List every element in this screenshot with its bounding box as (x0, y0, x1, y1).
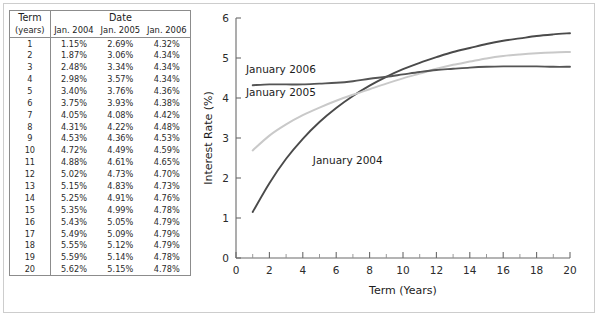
y-axis-title: Interest Rate (%) (202, 91, 215, 185)
header-term: Term (10, 11, 51, 25)
cell-jan-2004: 5.49% (50, 228, 97, 240)
cell-term: 16 (10, 216, 51, 228)
table-row: 165.43%5.05%4.79% (10, 216, 191, 228)
rate-table-body: 11.15%2.69%4.32%21.87%3.06%4.34%32.48%3.… (10, 38, 191, 276)
table-row: 53.40%3.76%4.36% (10, 85, 191, 97)
table-row: 11.15%2.69%4.32% (10, 38, 191, 50)
x-axis-ticks: 02468101214161820 (233, 252, 577, 276)
table-row: 21.87%3.06%4.34% (10, 49, 191, 61)
cell-term: 8 (10, 121, 51, 133)
cell-jan-2004: 4.72% (50, 145, 97, 157)
cell-jan-2005: 4.22% (97, 121, 143, 133)
cell-jan-2005: 4.61% (97, 156, 143, 168)
series-label-january-2005: January 2005 (245, 86, 316, 98)
cell-term: 4 (10, 73, 51, 85)
cell-jan-2005: 3.34% (97, 61, 143, 73)
cell-jan-2005: 3.93% (97, 97, 143, 109)
cell-jan-2006: 4.48% (144, 121, 191, 133)
header-date-group: Date (50, 11, 190, 25)
cell-jan-2004: 5.43% (50, 216, 97, 228)
table-row: 185.55%5.12%4.79% (10, 240, 191, 252)
x-tick-label: 8 (366, 264, 373, 276)
cell-jan-2005: 4.99% (97, 204, 143, 216)
cell-jan-2004: 2.98% (50, 73, 97, 85)
y-tick-label: 3 (222, 132, 229, 144)
cell-jan-2006: 4.36% (144, 85, 191, 97)
cell-jan-2006: 4.76% (144, 192, 191, 204)
cell-jan-2004: 5.55% (50, 240, 97, 252)
cell-jan-2006: 4.79% (144, 240, 191, 252)
cell-jan-2006: 4.78% (144, 263, 191, 275)
cell-jan-2006: 4.73% (144, 180, 191, 192)
cell-jan-2006: 4.78% (144, 204, 191, 216)
cell-term: 15 (10, 204, 51, 216)
table-row: 32.48%3.34%4.34% (10, 61, 191, 73)
table-row: 195.59%5.14%4.78% (10, 252, 191, 264)
cell-term: 6 (10, 97, 51, 109)
x-tick-label: 4 (299, 264, 306, 276)
header-jan-2004: Jan. 2004 (50, 24, 97, 38)
yield-curve-chart-panel: 0123456 02468101214161820 January 2004Ja… (198, 6, 592, 312)
cell-jan-2004: 4.88% (50, 156, 97, 168)
cell-jan-2004: 5.02% (50, 168, 97, 180)
cell-jan-2004: 4.31% (50, 121, 97, 133)
x-tick-label: 12 (430, 264, 443, 276)
x-tick-label: 2 (266, 264, 273, 276)
cell-term: 3 (10, 61, 51, 73)
cell-jan-2004: 5.25% (50, 192, 97, 204)
cell-term: 19 (10, 252, 51, 264)
cell-term: 1 (10, 38, 51, 50)
cell-jan-2006: 4.79% (144, 228, 191, 240)
cell-jan-2004: 1.87% (50, 49, 97, 61)
cell-term: 9 (10, 133, 51, 145)
cell-jan-2006: 4.34% (144, 49, 191, 61)
y-tick-label: 4 (222, 92, 229, 104)
cell-jan-2006: 4.59% (144, 145, 191, 157)
chart-series-labels: January 2004January 2005January 2006 (245, 63, 383, 166)
table-row: 74.05%4.08%4.42% (10, 109, 191, 121)
x-tick-label: 0 (233, 264, 240, 276)
cell-term: 20 (10, 263, 51, 275)
series-label-january-2006: January 2006 (245, 63, 316, 75)
cell-jan-2006: 4.78% (144, 252, 191, 264)
y-axis-ticks: 0123456 (222, 12, 241, 264)
x-tick-label: 6 (333, 264, 340, 276)
yield-curve-figure: Term Date (years) Jan. 2004 Jan. 2005 Ja… (0, 0, 598, 318)
series-line-january-2004 (253, 33, 570, 212)
cell-term: 14 (10, 192, 51, 204)
cell-jan-2005: 5.05% (97, 216, 143, 228)
header-jan-2006: Jan. 2006 (144, 24, 191, 38)
x-tick-label: 16 (497, 264, 511, 276)
cell-term: 11 (10, 156, 51, 168)
cell-jan-2005: 3.76% (97, 85, 143, 97)
table-row: 114.88%4.61%4.65% (10, 156, 191, 168)
header-jan-2005: Jan. 2005 (97, 24, 143, 38)
cell-jan-2005: 2.69% (97, 38, 143, 50)
cell-term: 12 (10, 168, 51, 180)
cell-jan-2006: 4.32% (144, 38, 191, 50)
table-row: 155.35%4.99%4.78% (10, 204, 191, 216)
cell-jan-2006: 4.79% (144, 216, 191, 228)
rate-table-header-row-1: Term Date (10, 11, 191, 25)
cell-jan-2004: 2.48% (50, 61, 97, 73)
cell-jan-2004: 3.40% (50, 85, 97, 97)
cell-jan-2004: 5.35% (50, 204, 97, 216)
cell-jan-2006: 4.38% (144, 97, 191, 109)
rate-table-header: Term Date (years) Jan. 2004 Jan. 2005 Ja… (10, 11, 191, 38)
y-tick-label: 1 (222, 212, 229, 224)
cell-jan-2005: 5.15% (97, 263, 143, 275)
cell-term: 18 (10, 240, 51, 252)
cell-term: 7 (10, 109, 51, 121)
cell-jan-2006: 4.70% (144, 168, 191, 180)
cell-term: 5 (10, 85, 51, 97)
cell-term: 17 (10, 228, 51, 240)
y-tick-label: 6 (222, 12, 229, 24)
y-tick-label: 5 (222, 52, 229, 64)
table-row: 175.49%5.09%4.79% (10, 228, 191, 240)
cell-term: 10 (10, 145, 51, 157)
cell-jan-2004: 5.15% (50, 180, 97, 192)
table-row: 84.31%4.22%4.48% (10, 121, 191, 133)
table-row: 145.25%4.91%4.76% (10, 192, 191, 204)
cell-jan-2005: 3.06% (97, 49, 143, 61)
rate-table-panel: Term Date (years) Jan. 2004 Jan. 2005 Ja… (9, 10, 191, 300)
